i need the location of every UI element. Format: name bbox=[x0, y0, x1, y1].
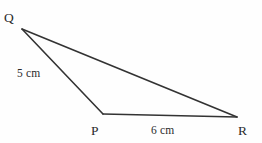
vertex-label-p: P bbox=[91, 124, 99, 138]
side-length-label-pr: 6 cm bbox=[151, 125, 174, 137]
triangle-figure: Q P R 5 cm 6 cm bbox=[0, 0, 262, 143]
vertex-label-q: Q bbox=[4, 11, 14, 25]
edge-pr-line bbox=[103, 114, 237, 117]
vertex-label-r: R bbox=[238, 124, 247, 138]
edge-qr-line bbox=[22, 29, 237, 117]
side-length-label-qp: 5 cm bbox=[17, 68, 40, 80]
